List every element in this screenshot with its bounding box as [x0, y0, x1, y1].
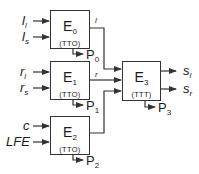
input-sub: l	[25, 21, 27, 30]
input-label-lfe: LFE	[6, 135, 30, 148]
input-label-ls: ls	[22, 30, 29, 48]
block-mode: (TTO)	[51, 146, 89, 154]
block-name: E3	[123, 70, 160, 90]
block-mode: (TTT)	[123, 91, 160, 99]
block-e3: E3 (TTT)	[122, 61, 161, 101]
block-e2: E2 (TTO)	[50, 116, 90, 155]
p-label-1: P1	[86, 99, 99, 117]
output-label-sl: sl	[183, 64, 191, 82]
arrow-p3	[145, 100, 155, 107]
block-name: E2	[51, 125, 89, 145]
input-sub: l	[24, 72, 26, 81]
input-base: c	[23, 118, 30, 133]
wire-label-r: r	[95, 71, 98, 79]
input-label-c: c	[23, 119, 30, 132]
output-label-sr: sr	[183, 82, 192, 100]
block-name: E0	[51, 19, 89, 39]
input-sub: s	[24, 88, 28, 97]
wire-label-l: l	[95, 17, 97, 25]
p-label-3: P3	[158, 101, 171, 119]
block-name: E1	[51, 70, 89, 90]
input-base: LFE	[6, 134, 30, 149]
p-label-0: P0	[86, 48, 99, 66]
block-e1: E1 (TTO)	[50, 61, 90, 100]
input-label-rs: rs	[20, 81, 28, 99]
p-label-2: P2	[86, 154, 99, 172]
block-e0: E0 (TTO)	[50, 10, 90, 49]
block-mode: (TTO)	[51, 40, 89, 48]
block-mode: (TTO)	[51, 91, 89, 99]
input-sub: s	[25, 37, 29, 46]
